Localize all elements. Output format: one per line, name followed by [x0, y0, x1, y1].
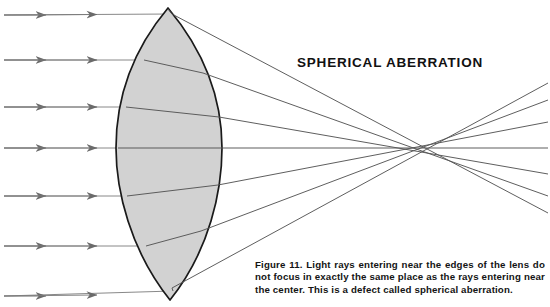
refracted-ray-5	[218, 122, 548, 185]
incoming-ray-1	[4, 14, 172, 15]
incoming-ray-7	[4, 291, 173, 296]
diagram-title: SPHERICAL ABERRATION	[297, 55, 483, 70]
figure-caption: Figure 11. Light rays entering near the …	[255, 259, 545, 296]
lens-body	[116, 8, 222, 300]
figure-container: SPHERICAL ABERRATION Figure 11. Light ra…	[0, 0, 550, 307]
refracted-ray-6	[201, 100, 548, 231]
